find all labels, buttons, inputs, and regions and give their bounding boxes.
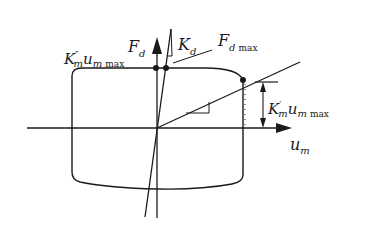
km-prime-label: K′mummax — [267, 100, 329, 119]
fdmax-point — [163, 65, 169, 71]
km-prime-slope-triangle — [186, 102, 209, 113]
dimension-arrow-down-icon — [260, 118, 266, 128]
km-prime-point — [240, 77, 246, 83]
dimension-arrow-up-icon — [260, 82, 266, 92]
fdmax-label: Fdmax — [217, 31, 258, 53]
um-axis-arrow-icon — [276, 123, 292, 133]
fd-axis-label: Fd — [127, 37, 146, 59]
km-double-prime-point — [153, 65, 159, 71]
diagram-canvas: Fd K″mummax Kd Fdmax K′mummax um — [0, 0, 367, 225]
kd-label: Kd — [177, 35, 196, 57]
hysteresis-diagram: Fd K″mummax Kd Fdmax K′mummax um — [0, 0, 367, 225]
km-double-prime-label: K″mummax — [63, 50, 124, 69]
um-axis-label: um — [290, 135, 310, 156]
fd-axis-arrow-icon — [152, 37, 162, 54]
